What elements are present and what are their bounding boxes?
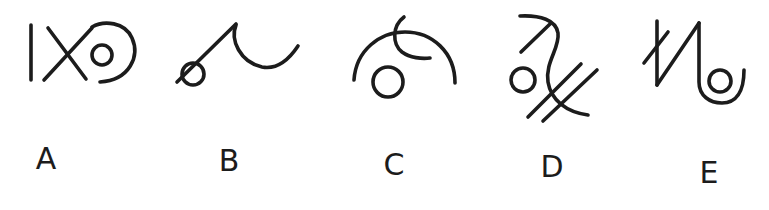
symbol-e — [644, 21, 744, 103]
zigzag-diagonal — [657, 23, 699, 85]
symbol-d — [511, 16, 597, 121]
arrow-diagonal — [521, 24, 550, 52]
option-label-e: E — [689, 158, 729, 188]
hook-arc — [395, 17, 430, 58]
option-label-a: A — [26, 144, 66, 174]
u-curve — [234, 25, 298, 67]
symbol-b — [177, 24, 298, 85]
small-circle — [373, 67, 403, 97]
option-label-c: C — [374, 150, 414, 180]
small-circle — [709, 70, 731, 92]
small-circle — [92, 45, 112, 65]
symbol-figure: A B C D E — [0, 0, 769, 210]
small-circle — [511, 68, 535, 92]
symbol-c — [354, 17, 455, 97]
large-arch — [354, 32, 455, 83]
option-label-b: B — [209, 146, 249, 176]
diagonal-stroke — [177, 24, 236, 82]
symbol-a — [31, 23, 135, 82]
option-label-d: D — [532, 152, 572, 182]
